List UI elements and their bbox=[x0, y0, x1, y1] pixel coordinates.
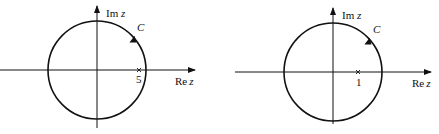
orientation-arrow-icon bbox=[364, 38, 372, 46]
contour-label: C bbox=[137, 21, 145, 33]
marked-point-label: 5 bbox=[136, 73, 142, 85]
contour-diagrams: Im z C 5 Rez Im z C 1 Rez bbox=[0, 0, 439, 134]
real-axis-label: Rez bbox=[175, 75, 194, 87]
right-figure: Im z C 1 Rez bbox=[235, 8, 431, 124]
contour-label: C bbox=[373, 23, 381, 35]
imag-axis-label: Im z bbox=[342, 9, 362, 21]
imag-axis-label: Im z bbox=[106, 7, 126, 19]
real-axis-label: Rez bbox=[412, 77, 431, 89]
marked-point-label: 1 bbox=[356, 76, 362, 88]
left-figure: Im z C 5 Rez bbox=[0, 6, 195, 128]
